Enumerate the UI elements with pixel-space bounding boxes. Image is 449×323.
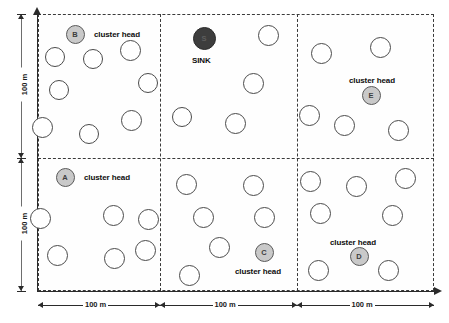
cluster-head-c-caption: cluster head — [235, 267, 281, 276]
sensor-node-0[interactable] — [45, 47, 65, 67]
sensor-node-27[interactable] — [209, 237, 230, 258]
sensor-node-23[interactable] — [176, 174, 197, 195]
cluster-head-d-caption: cluster head — [330, 238, 376, 247]
cluster-head-d[interactable]: D — [350, 247, 369, 266]
cluster-head-e[interactable]: E — [362, 86, 381, 105]
dimension-arrow-right-icon-2 — [292, 302, 297, 308]
dimension-arrow-left-icon-3 — [297, 302, 302, 308]
cluster-head-b[interactable]: B — [66, 25, 85, 44]
dimension-arrow-up-icon-1 — [18, 14, 24, 19]
dimension-arrow-down-icon-2 — [18, 286, 24, 291]
cluster-head-a[interactable]: A — [56, 168, 75, 187]
grid-divider-vertical-2 — [297, 14, 298, 291]
cluster-head-d-label: D — [356, 252, 361, 261]
cluster-head-a-caption: cluster head — [84, 173, 130, 182]
sensor-node-9[interactable] — [243, 73, 264, 94]
cluster-head-a-label: A — [62, 173, 67, 182]
cluster-head-b-label: B — [72, 30, 77, 39]
sensor-node-25[interactable] — [193, 207, 214, 228]
dimension-arrow-right-icon-1 — [155, 302, 160, 308]
sensor-node-19[interactable] — [138, 209, 159, 230]
dimension-label-horizontal-1: 100 m — [83, 300, 108, 309]
sink-node-label: S — [201, 34, 206, 43]
cluster-head-e-caption: cluster head — [349, 76, 395, 85]
sensor-node-30[interactable] — [346, 176, 367, 197]
cluster-head-b-caption: cluster head — [94, 30, 140, 39]
sensor-node-26[interactable] — [254, 207, 275, 228]
sensor-node-11[interactable] — [225, 113, 246, 134]
sensor-node-28[interactable] — [179, 265, 200, 286]
sensor-node-24[interactable] — [243, 175, 264, 196]
sensor-node-29[interactable] — [300, 171, 321, 192]
sensor-node-15[interactable] — [334, 115, 355, 136]
sensor-node-20[interactable] — [47, 245, 68, 266]
cluster-head-c-label: C — [261, 248, 266, 257]
sensor-node-10[interactable] — [172, 107, 192, 127]
sensor-node-5[interactable] — [32, 117, 53, 138]
sensor-node-18[interactable] — [103, 205, 124, 226]
x-axis-line — [37, 291, 435, 292]
dimension-label-horizontal-3: 100 m — [350, 300, 375, 309]
grid-divider-vertical-1 — [160, 14, 161, 291]
sensor-node-22[interactable] — [135, 240, 156, 261]
dimension-label-vertical-2: 100 m — [20, 206, 29, 240]
sink-caption: SINK — [192, 56, 211, 65]
sensor-node-8[interactable] — [258, 25, 279, 46]
sensor-node-33[interactable] — [382, 205, 403, 226]
sensor-node-6[interactable] — [79, 124, 99, 144]
sensor-node-2[interactable] — [120, 40, 141, 61]
sensor-node-4[interactable] — [138, 73, 158, 93]
sensor-node-32[interactable] — [310, 203, 331, 224]
cluster-head-e-label: E — [368, 91, 373, 100]
sensor-node-35[interactable] — [378, 260, 399, 281]
sensor-node-13[interactable] — [370, 37, 391, 58]
dimension-label-vertical-1: 100 m — [20, 68, 29, 102]
dimension-arrow-down-icon-1 — [18, 153, 24, 158]
grid-divider-horizontal-1 — [38, 158, 434, 159]
x-axis-arrow-icon — [434, 287, 442, 295]
sensor-node-14[interactable] — [299, 105, 320, 126]
sensor-node-17[interactable] — [30, 208, 51, 229]
dimension-arrow-right-icon-3 — [429, 302, 434, 308]
sensor-node-16[interactable] — [388, 120, 409, 141]
dimension-tick-bottom-2 — [17, 291, 26, 292]
sensor-node-34[interactable] — [308, 260, 329, 281]
y-axis-arrow-icon — [33, 7, 41, 15]
dimension-arrow-left-icon-2 — [160, 302, 165, 308]
network-topology-diagram: ABCDES cluster headcluster headcluster h… — [0, 0, 449, 323]
sensor-node-12[interactable] — [311, 43, 332, 64]
sensor-node-21[interactable] — [104, 248, 125, 269]
dimension-arrow-left-icon-1 — [38, 302, 43, 308]
cluster-head-c[interactable]: C — [255, 243, 274, 262]
sensor-node-3[interactable] — [49, 80, 69, 100]
sensor-node-7[interactable] — [121, 110, 142, 131]
dimension-label-horizontal-2: 100 m — [213, 300, 238, 309]
sensor-node-1[interactable] — [83, 49, 103, 69]
sensor-node-31[interactable] — [395, 168, 416, 189]
dimension-arrow-up-icon-2 — [18, 158, 24, 163]
y-axis-line — [37, 14, 38, 292]
sink-node[interactable]: S — [193, 27, 216, 50]
